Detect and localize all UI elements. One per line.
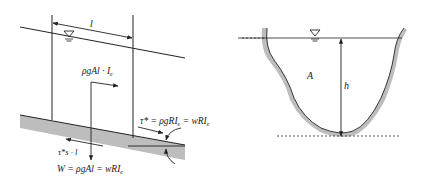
length-label: l bbox=[90, 18, 93, 29]
channel-reach-panel: l ρgAl · Ie τ*s · l W = ρgAl = wRIe τ* =… bbox=[20, 15, 210, 175]
driving-force-arrow bbox=[91, 82, 118, 115]
area-label: A bbox=[306, 70, 314, 81]
driving-force-label: ρgAl · Ie bbox=[81, 66, 113, 77]
friction-label: τ*s · l bbox=[58, 147, 78, 157]
cross-section-panel: h A bbox=[238, 28, 407, 137]
depth-label: h bbox=[344, 80, 349, 91]
angle-arrow-upper bbox=[166, 128, 181, 140]
water-surface-line bbox=[20, 27, 185, 58]
weight-label: W = ρgAl = wRIe bbox=[57, 164, 123, 175]
channel-bank-shading bbox=[262, 28, 407, 137]
water-surface-symbol-icon bbox=[310, 30, 320, 41]
shear-stress-label: τ* = ρgRIe = wRIe bbox=[140, 116, 210, 127]
open-channel-flow-diagram: l ρgAl · Ie τ*s · l W = ρgAl = wRIe τ* =… bbox=[0, 0, 421, 185]
shear-arrow bbox=[138, 127, 163, 133]
channel-bank-outline bbox=[267, 28, 404, 133]
